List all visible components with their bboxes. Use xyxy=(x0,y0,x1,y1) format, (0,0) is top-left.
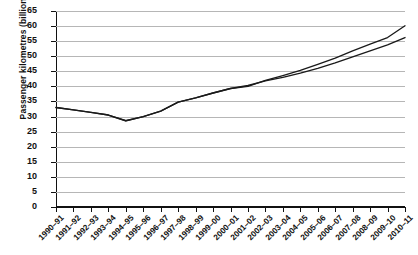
y-axis-tick-label: 15 xyxy=(3,157,37,166)
x-axis-tick xyxy=(353,207,354,212)
x-axis-tick xyxy=(231,207,232,212)
x-axis-tick xyxy=(126,207,127,212)
series-upper xyxy=(56,26,405,121)
line-chart: Passenger kilometres (billions) 05101520… xyxy=(0,0,418,255)
y-axis-tick-label: 50 xyxy=(3,51,37,60)
y-axis-tick-label: 55 xyxy=(3,36,37,45)
y-axis-tick-label: 35 xyxy=(3,96,37,105)
x-axis-tick xyxy=(161,207,162,212)
y-axis-tick-label: 25 xyxy=(3,127,37,136)
x-axis-tick xyxy=(405,207,406,212)
x-axis-tick xyxy=(265,207,266,212)
y-axis-tick-label: 20 xyxy=(3,142,37,151)
plot-area: 05101520253035404550556065 1990–911991–9… xyxy=(56,11,405,207)
x-axis-tick xyxy=(213,207,214,212)
x-axis-tick xyxy=(388,207,389,212)
x-axis-tick xyxy=(335,207,336,212)
x-axis-tick xyxy=(73,207,74,212)
y-axis-tick-label: 40 xyxy=(3,81,37,90)
y-axis-tick-label: 0 xyxy=(3,202,37,211)
x-axis-tick xyxy=(283,207,284,212)
x-axis-tick xyxy=(143,207,144,212)
y-axis-tick-label: 45 xyxy=(3,66,37,75)
y-axis-tick-label: 30 xyxy=(3,112,37,121)
x-axis-tick xyxy=(108,207,109,212)
series-lower xyxy=(56,38,405,121)
y-axis-tick-label: 5 xyxy=(3,187,37,196)
y-axis-tick-label: 60 xyxy=(3,21,37,30)
x-axis-tick xyxy=(178,207,179,212)
x-axis-tick xyxy=(91,207,92,212)
series-lines xyxy=(56,11,405,207)
x-axis-tick xyxy=(248,207,249,212)
x-axis-tick xyxy=(300,207,301,212)
x-axis-tick xyxy=(196,207,197,212)
y-axis-tick-label: 65 xyxy=(3,6,37,15)
y-axis-tick-label: 10 xyxy=(3,172,37,181)
x-axis-tick xyxy=(56,207,57,212)
x-axis-tick xyxy=(318,207,319,212)
x-axis-tick xyxy=(370,207,371,212)
